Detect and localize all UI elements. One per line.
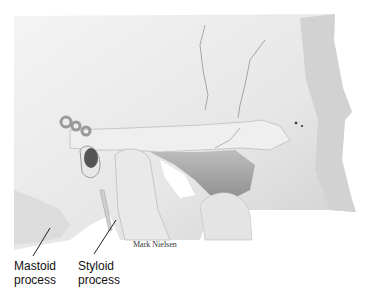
- skull-illustration: Mastoid process Styloid process Mark Nie…: [0, 0, 380, 294]
- label-styloid-process: Styloid process: [78, 259, 120, 287]
- label-mastoid-process: Mastoid process: [14, 259, 56, 287]
- photo-credit: Mark Nielsen: [133, 240, 177, 249]
- skull-photo: [0, 0, 380, 294]
